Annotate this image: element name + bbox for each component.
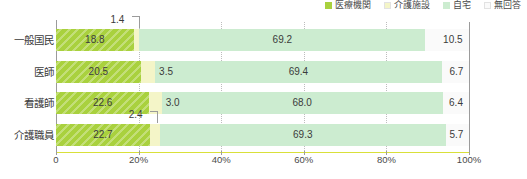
y-axis-label-2: 看護師 bbox=[0, 98, 54, 109]
bar-value-label: 10.5 bbox=[443, 35, 462, 45]
callout-text: 1.4 bbox=[111, 14, 125, 25]
legend-item-2[interactable]: 自宅 bbox=[443, 1, 471, 10]
bar-segment-医療機関[interactable]: 18.8 bbox=[56, 29, 134, 51]
bar-segment-無回答[interactable]: 10.5 bbox=[425, 29, 468, 51]
x-axis-tick-mark bbox=[139, 151, 140, 155]
x-axis-tick-80%: 80% bbox=[377, 155, 396, 165]
bar-value-label: 22.6 bbox=[93, 98, 112, 108]
bar-value-label: 5.7 bbox=[449, 130, 463, 140]
stacked-bar-chart: 医療機関介護施設自宅無回答 一般国民医師看護師介護職員 18.869.210.5… bbox=[0, 0, 527, 179]
x-axis-line bbox=[56, 152, 470, 153]
bar-row: 18.869.210.5 bbox=[56, 29, 469, 51]
bar-value-label: 18.8 bbox=[85, 35, 104, 45]
legend-label: 医療機関 bbox=[335, 1, 371, 10]
bar-value-label: 20.5 bbox=[89, 67, 108, 77]
bar-value-label: 69.4 bbox=[289, 67, 308, 77]
bar-value-label: 6.7 bbox=[449, 67, 463, 77]
bar-value-label: 68.0 bbox=[292, 98, 311, 108]
bar-segment-介護施設[interactable]: 3.5 bbox=[141, 61, 155, 83]
callout-label: 2.4 bbox=[129, 110, 143, 120]
x-axis-tick-mark bbox=[386, 151, 387, 155]
legend-item-3[interactable]: 無回答 bbox=[484, 1, 521, 10]
y-axis-label-3: 介護職員 bbox=[0, 130, 54, 141]
legend-item-0[interactable]: 医療機関 bbox=[325, 1, 371, 10]
bar-segment-医療機関[interactable]: 20.5 bbox=[56, 61, 141, 83]
x-axis-tick-100%: 100% bbox=[457, 155, 481, 165]
bar-segment-無回答[interactable]: 6.7 bbox=[442, 61, 470, 83]
legend-swatch-icon bbox=[484, 2, 491, 9]
bar-segment-自宅[interactable]: 68.0 bbox=[162, 92, 443, 114]
bar-segment-無回答[interactable]: 5.7 bbox=[446, 124, 470, 146]
callout-leader-vertical bbox=[139, 16, 140, 28]
legend-label: 介護施設 bbox=[394, 1, 430, 10]
bar-row: 20.53.569.46.7 bbox=[56, 61, 469, 83]
y-axis-label-1: 医師 bbox=[0, 67, 54, 78]
bar-value-label: 69.3 bbox=[293, 130, 312, 140]
callout-label: 1.4 bbox=[111, 15, 125, 25]
x-axis-tick-40%: 40% bbox=[212, 155, 231, 165]
y-axis-label-0: 一般国民 bbox=[0, 35, 54, 46]
bar-value-label: 3.5 bbox=[159, 67, 173, 77]
x-axis-tick-mark bbox=[221, 151, 222, 155]
legend-item-1[interactable]: 介護施設 bbox=[384, 1, 430, 10]
bar-row: 22.63.068.06.4 bbox=[56, 92, 469, 114]
x-axis-tick-20%: 20% bbox=[129, 155, 148, 165]
bar-value-label: 22.7 bbox=[93, 130, 112, 140]
x-axis-tick-60%: 60% bbox=[294, 155, 313, 165]
bar-segment-医療機関[interactable]: 22.7 bbox=[56, 124, 150, 146]
bar-value-label: 69.2 bbox=[273, 35, 292, 45]
x-axis-tick-labels: 020%40%60%80%100% bbox=[56, 155, 470, 175]
legend-label: 自宅 bbox=[453, 1, 471, 10]
legend-swatch-icon bbox=[384, 2, 391, 9]
x-axis-tick-0: 0 bbox=[53, 155, 58, 165]
legend-label: 無回答 bbox=[494, 1, 521, 10]
plot-area: 18.869.210.520.53.569.46.722.63.068.06.4… bbox=[56, 22, 469, 151]
bar-segment-自宅[interactable]: 69.4 bbox=[155, 61, 442, 83]
bar-segment-自宅[interactable]: 69.2 bbox=[139, 29, 425, 51]
callout-leader-vertical bbox=[157, 111, 158, 123]
y-axis-category-labels: 一般国民医師看護師介護職員 bbox=[0, 22, 54, 151]
bar-segment-介護施設[interactable] bbox=[150, 124, 160, 146]
legend-swatch-icon bbox=[443, 2, 450, 9]
bar-segment-自宅[interactable]: 69.3 bbox=[160, 124, 446, 146]
bar-value-label: 6.4 bbox=[449, 98, 463, 108]
bar-value-label: 3.0 bbox=[166, 98, 180, 108]
legend-swatch-icon bbox=[325, 2, 332, 9]
x-axis-tick-mark bbox=[304, 151, 305, 155]
bar-segment-無回答[interactable]: 6.4 bbox=[443, 92, 469, 114]
bar-row: 22.769.35.7 bbox=[56, 124, 469, 146]
callout-text: 2.4 bbox=[129, 109, 143, 120]
chart-legend: 医療機関介護施設自宅無回答 bbox=[325, 1, 521, 10]
x-axis-tick-mark bbox=[56, 151, 57, 155]
x-axis-tick-mark bbox=[469, 151, 470, 155]
